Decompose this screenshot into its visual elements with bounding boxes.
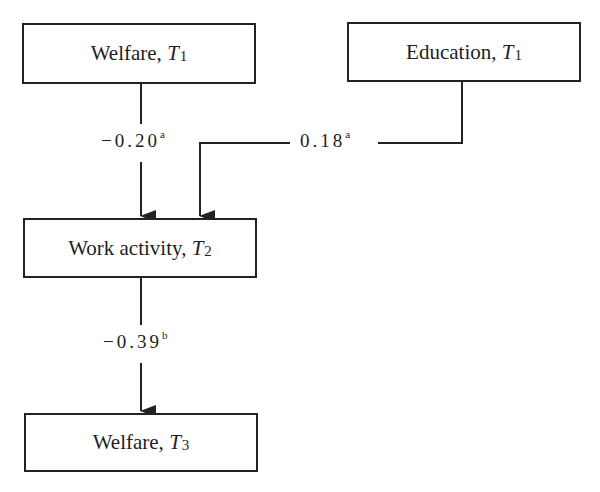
node-var: T <box>192 236 204 261</box>
node-subscript: 1 <box>514 47 522 64</box>
node-label: Welfare, <box>93 430 164 455</box>
node-subscript: 2 <box>204 243 212 260</box>
edge-label-welfare-work: −0.20a <box>101 130 165 152</box>
significance-note: a <box>345 128 350 140</box>
node-label: Welfare, <box>91 41 162 66</box>
node-welfare-t3: Welfare, T3 <box>24 413 258 472</box>
edge-label-education-work: 0.18a <box>300 130 350 152</box>
node-var: T <box>502 40 514 65</box>
node-welfare-t1: Welfare, T1 <box>22 23 256 84</box>
significance-note: a <box>160 128 165 140</box>
edge-label-work-welfare: −0.39b <box>103 331 167 353</box>
significance-note: b <box>162 329 168 341</box>
node-work-activity-t2: Work activity, T2 <box>23 218 257 278</box>
node-education-t1: Education, T1 <box>347 22 581 82</box>
node-label: Work activity, <box>68 236 186 261</box>
coefficient: −0.39 <box>103 331 162 352</box>
coefficient: −0.20 <box>101 130 160 151</box>
edge-education-t1-right <box>378 81 462 143</box>
node-subscript: 3 <box>182 437 190 454</box>
node-var: T <box>169 430 181 455</box>
coefficient: 0.18 <box>300 130 345 151</box>
node-var: T <box>167 41 179 66</box>
edge-education-t1-left <box>200 143 290 216</box>
node-label: Education, <box>406 40 496 65</box>
node-subscript: 1 <box>180 48 188 65</box>
